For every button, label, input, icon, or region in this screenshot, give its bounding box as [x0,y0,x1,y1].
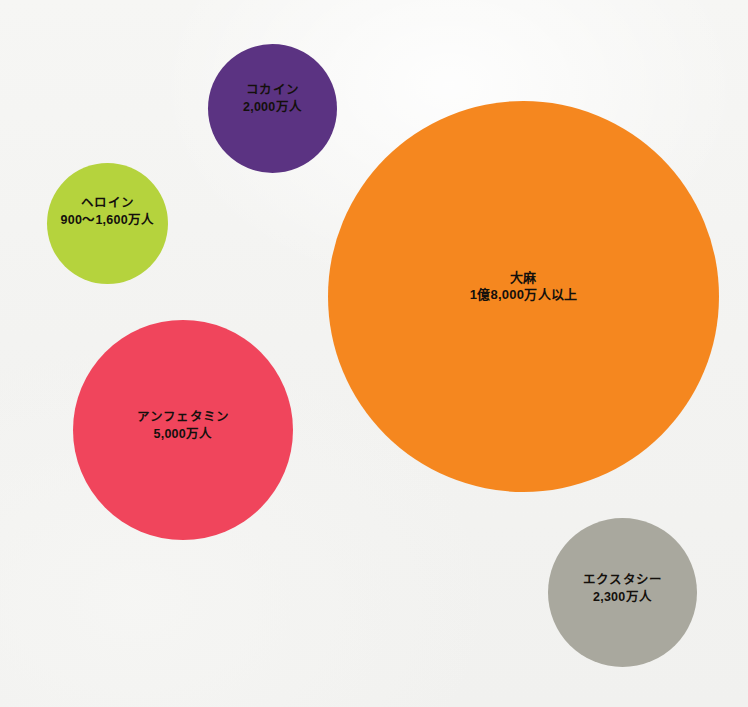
bubble-heroin-text: ヘロイン 900～1,600万人 [47,195,168,228]
bubble-cocaine-text: コカイン 2,000万人 [208,82,337,115]
bubble-cocaine[interactable]: コカイン 2,000万人 [208,44,337,173]
bubble-cannabis-label: 大麻 [328,269,719,286]
bubble-ecstasy-label: エクスタシー [548,572,697,589]
bubble-ecstasy[interactable]: エクスタシー 2,300万人 [548,518,697,667]
bubble-heroin-label: ヘロイン [47,195,168,212]
bubble-heroin-value: 900～1,600万人 [47,212,168,229]
bubble-cocaine-label: コカイン [208,82,337,99]
bubble-heroin[interactable]: ヘロイン 900～1,600万人 [47,163,168,284]
bubble-ecstasy-text: エクスタシー 2,300万人 [548,572,697,605]
bubble-ecstasy-value: 2,300万人 [548,589,697,606]
bubble-amphetamine-label: アンフェタミン [73,409,293,426]
bubble-chart-canvas: コカイン 2,000万人 ヘロイン 900～1,600万人 大麻 1億8,000… [0,0,748,707]
bubble-amphetamine-text: アンフェタミン 5,000万人 [73,409,293,442]
bubble-cannabis-text: 大麻 1億8,000万人以上 [328,269,719,303]
bubble-cocaine-value: 2,000万人 [208,99,337,116]
bubble-amphetamine[interactable]: アンフェタミン 5,000万人 [73,320,293,540]
bubble-cannabis-value: 1億8,000万人以上 [328,286,719,303]
bubble-cannabis[interactable]: 大麻 1億8,000万人以上 [328,101,719,492]
bubble-amphetamine-value: 5,000万人 [73,426,293,443]
